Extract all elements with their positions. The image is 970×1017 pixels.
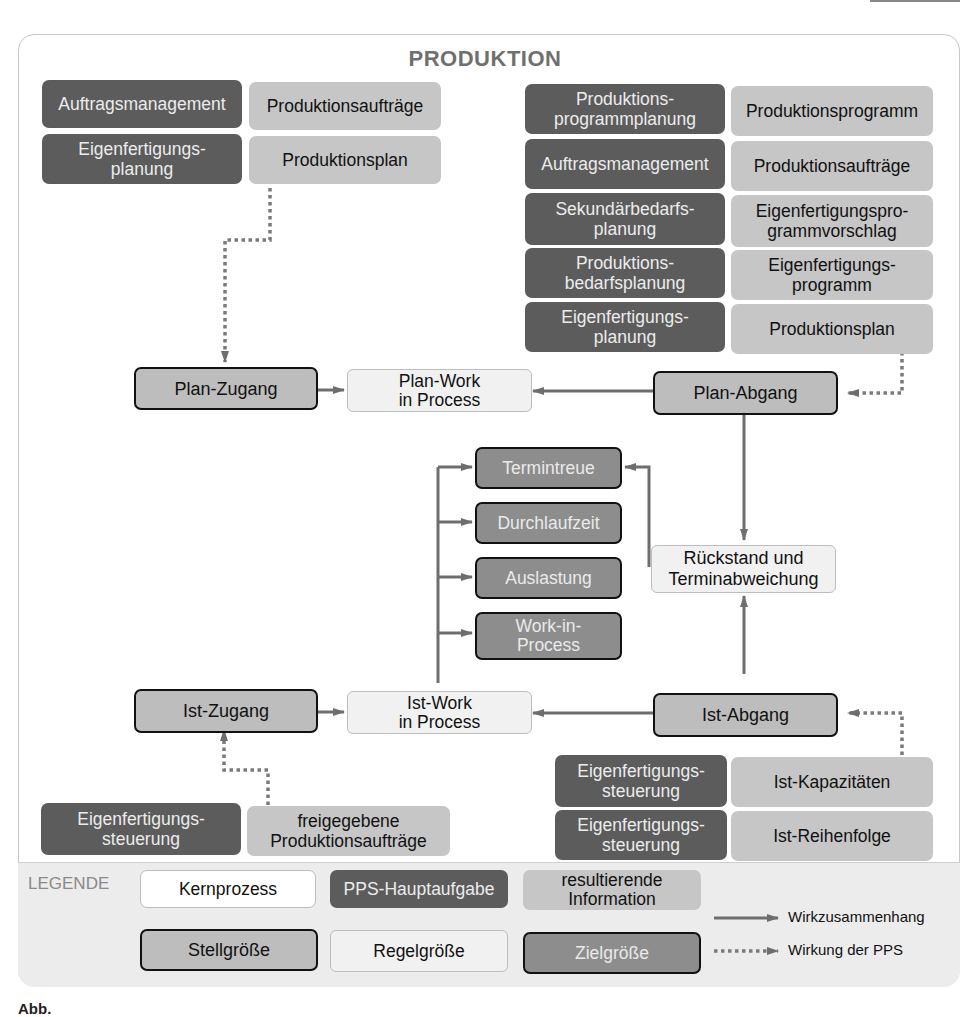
figure-caption: Abb. — [18, 1000, 51, 1017]
info-ist-reihenfolge: Ist-Reihenfolge — [731, 811, 933, 861]
legend-stellgroesse: Stellgröße — [140, 929, 318, 971]
task-auftragsmanagement: Auftragsmanagement — [525, 139, 725, 189]
target-auslastung: Auslastung — [475, 557, 622, 599]
node-ist-zugang: Ist-Zugang — [134, 689, 318, 733]
task-auftragsmanagement: Auftragsmanagement — [42, 80, 242, 128]
info-produktionsplan: Produktionsplan — [249, 136, 441, 184]
node-plan-abgang: Plan-Abgang — [653, 371, 838, 415]
legend-wirkzusammenhang: Wirkzusammenhang — [788, 908, 925, 925]
info-produktionsplan: Produktionsplan — [731, 304, 933, 354]
legend-resultierende-information: resultierende Information — [523, 870, 701, 910]
task-eigenfertigungssteuerung: Eigenfertigungs- steuerung — [555, 810, 727, 860]
task-sekundaerbedarfsplanung: Sekundärbedarfs- planung — [525, 193, 725, 245]
task-eigenfertigungsplanung: Eigenfertigungs- planung — [525, 302, 725, 352]
info-produktionsprogramm: Produktionsprogramm — [731, 86, 933, 136]
task-eigenfertigungsplanung: Eigenfertigungs- planung — [42, 134, 242, 184]
info-ist-kapazitaeten: Ist-Kapazitäten — [731, 757, 933, 807]
node-ist-abgang: Ist-Abgang — [653, 693, 838, 737]
legend-wirkung-pps: Wirkung der PPS — [788, 941, 903, 958]
node-ist-work-in-process: Ist-Work in Process — [347, 691, 532, 734]
node-plan-work-in-process: Plan-Work in Process — [347, 369, 532, 412]
info-eigenfertigungsprogrammvorschlag: Eigenfertigungspro- grammvorschlag — [731, 195, 933, 247]
task-eigenfertigungssteuerung: Eigenfertigungs- steuerung — [555, 755, 727, 807]
target-termintreue: Termintreue — [475, 447, 622, 489]
legend-zielgroesse: Zielgröße — [523, 932, 701, 974]
node-rueckstand-terminabweichung: Rückstand und Terminabweichung — [651, 545, 836, 593]
node-plan-zugang: Plan-Zugang — [134, 367, 318, 410]
task-eigenfertigungssteuerung: Eigenfertigungs- steuerung — [41, 803, 241, 855]
target-durchlaufzeit: Durchlaufzeit — [475, 502, 622, 544]
info-produktionsauftraege: Produktionsaufträge — [731, 141, 933, 191]
task-produktionsbedarfsplanung: Produktions- bedarfsplanung — [525, 248, 725, 298]
legend-kernprozess: Kernprozess — [140, 870, 316, 908]
info-produktionsauftraege: Produktionsaufträge — [249, 82, 441, 130]
info-freigegebene-produktionsauftraege: freigegebene Produktionsaufträge — [247, 806, 450, 856]
legend-pps-hauptaufgabe: PPS-Hauptaufgabe — [330, 870, 508, 908]
legend-regelgroesse: Regelgröße — [330, 930, 508, 972]
legend-title: LEGENDE — [28, 874, 109, 894]
info-eigenfertigungsprogramm: Eigenfertigungs- programm — [731, 250, 933, 300]
task-produktionsprogrammplanung: Produktions- programmplanung — [525, 84, 725, 134]
target-work-in-process: Work-in- Process — [475, 612, 622, 660]
